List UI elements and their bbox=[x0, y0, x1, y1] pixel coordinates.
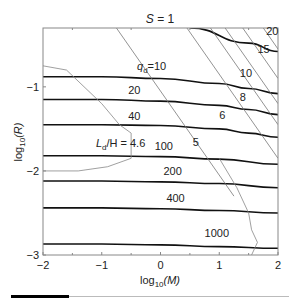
contour-value-label: 1000 bbox=[205, 227, 229, 239]
contour-value-label: 100 bbox=[155, 140, 173, 152]
qd-contour-line bbox=[43, 208, 278, 213]
y-tick-label: −2 bbox=[26, 165, 39, 177]
qd-contour-line bbox=[43, 125, 278, 138]
y-axis-label: log10(R) bbox=[12, 122, 27, 161]
contour-value-label: 8 bbox=[240, 91, 246, 103]
y-tick-label: −1 bbox=[26, 81, 39, 93]
x-tick-label: 2 bbox=[275, 259, 281, 271]
qd-contour-line bbox=[43, 156, 278, 164]
x-tick-label: 1 bbox=[216, 259, 222, 271]
qd-contour-line bbox=[43, 181, 278, 188]
ld-h-label: Ld/H = 4.6 bbox=[96, 137, 145, 152]
contour-value-label: 10 bbox=[240, 67, 252, 79]
contour-value-label: 40 bbox=[128, 110, 140, 122]
contour-chart: −2−1012 −1−2−3 S = 1 log10(M) log10(R) q… bbox=[0, 0, 296, 290]
contour-value-label: 200 bbox=[163, 165, 181, 177]
x-tick-label: −1 bbox=[95, 259, 108, 271]
x-axis-label: log10(M) bbox=[140, 274, 180, 289]
qd-contour-line bbox=[43, 244, 278, 248]
boundary-line bbox=[219, 158, 257, 255]
qd-label: qd=10 bbox=[137, 60, 166, 75]
contour-value-label: 5 bbox=[193, 136, 199, 148]
contour-value-label: 6 bbox=[219, 109, 225, 121]
contour-value-label: 400 bbox=[166, 192, 184, 204]
x-tick-label: 0 bbox=[157, 259, 163, 271]
y-tick-label: −3 bbox=[26, 249, 39, 261]
contour-value-label: 20 bbox=[266, 25, 278, 37]
contour-value-label: 15 bbox=[257, 43, 269, 55]
contour-value-label: 20 bbox=[128, 84, 140, 96]
annotations: qd=1020401002004001000Ld/H = 4.656810152… bbox=[96, 25, 279, 239]
chart-title: S = 1 bbox=[146, 12, 175, 26]
